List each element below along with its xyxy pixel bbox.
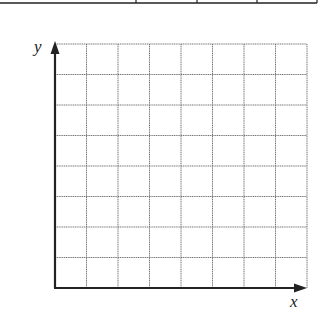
y-axis-arrow-icon bbox=[51, 41, 60, 54]
x-axis-label: x bbox=[290, 293, 298, 310]
top-table-bottom-edge bbox=[0, 0, 317, 3]
axes bbox=[51, 41, 308, 293]
grid-lines bbox=[55, 44, 307, 288]
y-axis-label: y bbox=[34, 38, 42, 55]
